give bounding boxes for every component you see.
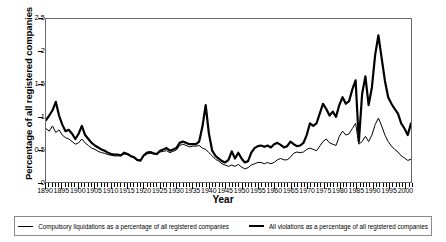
legend-item: All violations as a percentage of all re…	[249, 223, 428, 230]
y-tick-label: 1	[21, 113, 45, 121]
legend-line-swatch-thin	[18, 226, 33, 227]
series-line-thin	[46, 118, 411, 169]
legend-label: Compulsory liquidations as a percentage …	[38, 223, 229, 230]
legend-label: All violations as a percentage of all re…	[269, 223, 428, 230]
chart-legend: Compulsory liquidations as a percentage …	[14, 216, 432, 236]
x-axis-title: Year	[0, 194, 446, 205]
series-lines	[46, 19, 411, 182]
y-tick-label: 2.5	[21, 14, 45, 22]
chart-figure: Percentage of all registered companies 0…	[0, 0, 446, 242]
y-tick-label: 2	[21, 47, 45, 55]
y-tick-label: 0.5	[21, 146, 45, 154]
plot-area	[45, 18, 412, 183]
series-line-thick	[46, 35, 411, 162]
y-axis-ticks: 00.511.522.5	[0, 0, 45, 201]
legend-item: Compulsory liquidations as a percentage …	[18, 223, 229, 230]
y-tick-label: 1.5	[21, 80, 45, 88]
legend-line-swatch-thick	[249, 225, 264, 228]
